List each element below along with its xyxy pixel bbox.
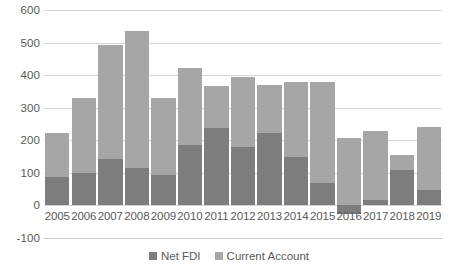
x-axis-tick-label: 2011 bbox=[203, 210, 230, 222]
y-axis-tick-label: 300 bbox=[2, 102, 40, 114]
bar-segment-current-account[interactable] bbox=[257, 85, 281, 133]
y-axis-tick-label: 0 bbox=[2, 199, 40, 211]
bar-segment-net-fdi[interactable] bbox=[390, 170, 414, 206]
x-axis-tick-label: 2005 bbox=[44, 210, 71, 222]
bar-segment-net-fdi[interactable] bbox=[417, 190, 441, 206]
bar-segment-current-account[interactable] bbox=[310, 82, 334, 183]
x-axis-line bbox=[44, 238, 442, 239]
y-axis-tick-label: 600 bbox=[2, 4, 40, 16]
bar-segment-current-account[interactable] bbox=[390, 155, 414, 170]
x-axis-tick-label: 2014 bbox=[283, 210, 310, 222]
bar-group[interactable] bbox=[98, 10, 122, 238]
bar-segment-current-account[interactable] bbox=[231, 77, 255, 147]
bar-group[interactable] bbox=[125, 10, 149, 238]
bar-group[interactable] bbox=[178, 10, 202, 238]
bar-segment-net-fdi[interactable] bbox=[204, 128, 228, 205]
bar-segment-current-account[interactable] bbox=[98, 45, 122, 159]
bar-segment-current-account[interactable] bbox=[363, 131, 387, 199]
stacked-bar-chart: 6005004003002001000-100 2005200620072008… bbox=[0, 0, 458, 274]
y-axis-tick-label: -100 bbox=[2, 232, 40, 244]
y-axis: 6005004003002001000-100 bbox=[0, 10, 40, 238]
bar-segment-net-fdi[interactable] bbox=[72, 173, 96, 206]
x-axis-tick-label: 2017 bbox=[362, 210, 389, 222]
bar-group[interactable] bbox=[310, 10, 334, 238]
x-axis-tick-label: 2018 bbox=[389, 210, 416, 222]
bars-layer bbox=[44, 10, 442, 238]
bar-segment-net-fdi[interactable] bbox=[363, 200, 387, 206]
bar-segment-net-fdi[interactable] bbox=[151, 175, 175, 205]
y-axis-tick-label: 100 bbox=[2, 167, 40, 179]
legend-label: Net FDI bbox=[161, 250, 201, 262]
legend-item[interactable]: Net FDI bbox=[149, 250, 201, 262]
x-axis-tick-label: 2008 bbox=[124, 210, 151, 222]
bar-group[interactable] bbox=[417, 10, 441, 238]
x-axis-tick-label: 2012 bbox=[230, 210, 257, 222]
legend-label: Current Account bbox=[227, 250, 309, 262]
bar-segment-current-account[interactable] bbox=[151, 98, 175, 176]
y-axis-tick-label: 400 bbox=[2, 69, 40, 81]
x-axis-tick-label: 2015 bbox=[309, 210, 336, 222]
bar-group[interactable] bbox=[257, 10, 281, 238]
bar-segment-current-account[interactable] bbox=[337, 138, 361, 205]
x-axis-tick-label: 2019 bbox=[415, 210, 442, 222]
legend-item[interactable]: Current Account bbox=[215, 250, 309, 262]
bar-segment-current-account[interactable] bbox=[125, 31, 149, 168]
x-axis-tick-label: 2013 bbox=[256, 210, 283, 222]
bar-group[interactable] bbox=[390, 10, 414, 238]
bar-segment-net-fdi[interactable] bbox=[45, 177, 69, 206]
bar-segment-current-account[interactable] bbox=[204, 86, 228, 129]
bar-group[interactable] bbox=[45, 10, 69, 238]
bar-segment-net-fdi[interactable] bbox=[178, 145, 202, 206]
bar-group[interactable] bbox=[231, 10, 255, 238]
bar-group[interactable] bbox=[363, 10, 387, 238]
bar-segment-net-fdi[interactable] bbox=[98, 159, 122, 206]
bar-segment-net-fdi[interactable] bbox=[231, 147, 255, 206]
x-axis-tick-label: 2006 bbox=[71, 210, 98, 222]
x-axis-tick-label: 2010 bbox=[177, 210, 204, 222]
x-axis-tick-label: 2009 bbox=[150, 210, 177, 222]
x-axis-tick-label: 2007 bbox=[97, 210, 124, 222]
legend-swatch-icon bbox=[149, 252, 157, 260]
x-axis-tick-label: 2016 bbox=[336, 210, 363, 222]
bar-segment-current-account[interactable] bbox=[417, 127, 441, 190]
bar-segment-current-account[interactable] bbox=[284, 82, 308, 157]
chart-legend: Net FDICurrent Account bbox=[0, 250, 458, 262]
bar-segment-net-fdi[interactable] bbox=[310, 183, 334, 205]
bar-segment-current-account[interactable] bbox=[178, 68, 202, 145]
bar-group[interactable] bbox=[284, 10, 308, 238]
y-axis-tick-label: 500 bbox=[2, 37, 40, 49]
plot-area bbox=[44, 10, 442, 238]
y-axis-tick-label: 200 bbox=[2, 134, 40, 146]
bar-segment-net-fdi[interactable] bbox=[257, 133, 281, 205]
bar-segment-current-account[interactable] bbox=[45, 133, 69, 177]
bar-segment-net-fdi[interactable] bbox=[284, 157, 308, 206]
bar-group[interactable] bbox=[204, 10, 228, 238]
bar-group[interactable] bbox=[337, 10, 361, 238]
bar-group[interactable] bbox=[72, 10, 96, 238]
bar-segment-current-account[interactable] bbox=[72, 98, 96, 173]
legend-swatch-icon bbox=[215, 252, 223, 260]
bar-segment-net-fdi[interactable] bbox=[125, 168, 149, 205]
bar-group[interactable] bbox=[151, 10, 175, 238]
